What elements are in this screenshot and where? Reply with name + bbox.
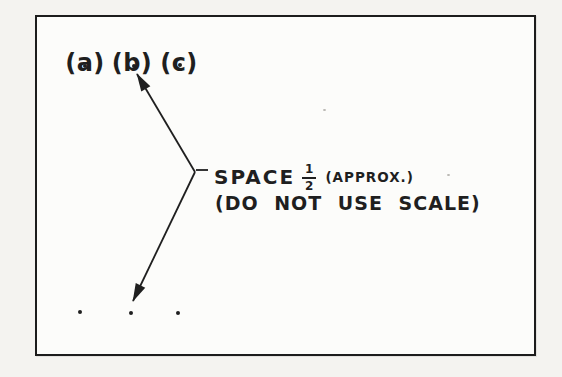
point-label-b: (b) [112,49,153,77]
fraction-denominator: 2 [305,179,313,193]
callout-line1: SPACE 1 2 (APPROX.) [214,162,414,191]
scanned-figure: (a) (b) (c) SPACE 1 2 (APPROX.) (DO NOT … [0,0,562,377]
scan-speck [447,174,450,176]
callout-note: (DO NOT USE SCALE) [215,192,481,214]
point-label-a: (a) [65,49,105,77]
fraction-numerator: 1 [302,163,316,179]
one-half-fraction: 1 2 [302,163,316,192]
dot-top-b [132,64,136,68]
dot-bottom-b [129,311,133,315]
scan-speck [323,109,326,111]
callout-approx-label: (APPROX.) [325,169,414,185]
dot-bottom-c [176,311,180,315]
dot-bottom-a [78,310,82,314]
dot-top-a [83,64,87,68]
callout-space-label: SPACE [214,165,295,189]
dot-top-c [178,63,182,67]
figure-border: (a) (b) (c) SPACE 1 2 (APPROX.) (DO NOT … [35,15,536,356]
